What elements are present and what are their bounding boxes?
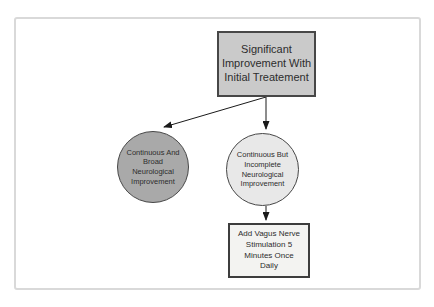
node-continuous-incomplete-improvement: Continuous But Incomplete Neurological I… [226, 133, 299, 206]
node-continuous-incomplete-improvement-label: Continuous But Incomplete Neurological I… [237, 150, 288, 189]
node-significant-improvement: Significant Improvement With Initial Tre… [217, 31, 316, 97]
node-continuous-broad-improvement: Continuous And Broad Neurological Improv… [117, 131, 189, 203]
node-significant-improvement-label: Significant Improvement With Initial Tre… [222, 43, 311, 84]
node-continuous-broad-improvement-label: Continuous And Broad Neurological Improv… [127, 148, 180, 187]
node-add-vagus-nerve-stimulation-label: Add Vagus Nerve Stimulation 5 Minutes On… [238, 229, 300, 272]
flowchart-canvas: Significant Improvement With Initial Tre… [0, 0, 434, 307]
node-add-vagus-nerve-stimulation: Add Vagus Nerve Stimulation 5 Minutes On… [228, 223, 310, 278]
